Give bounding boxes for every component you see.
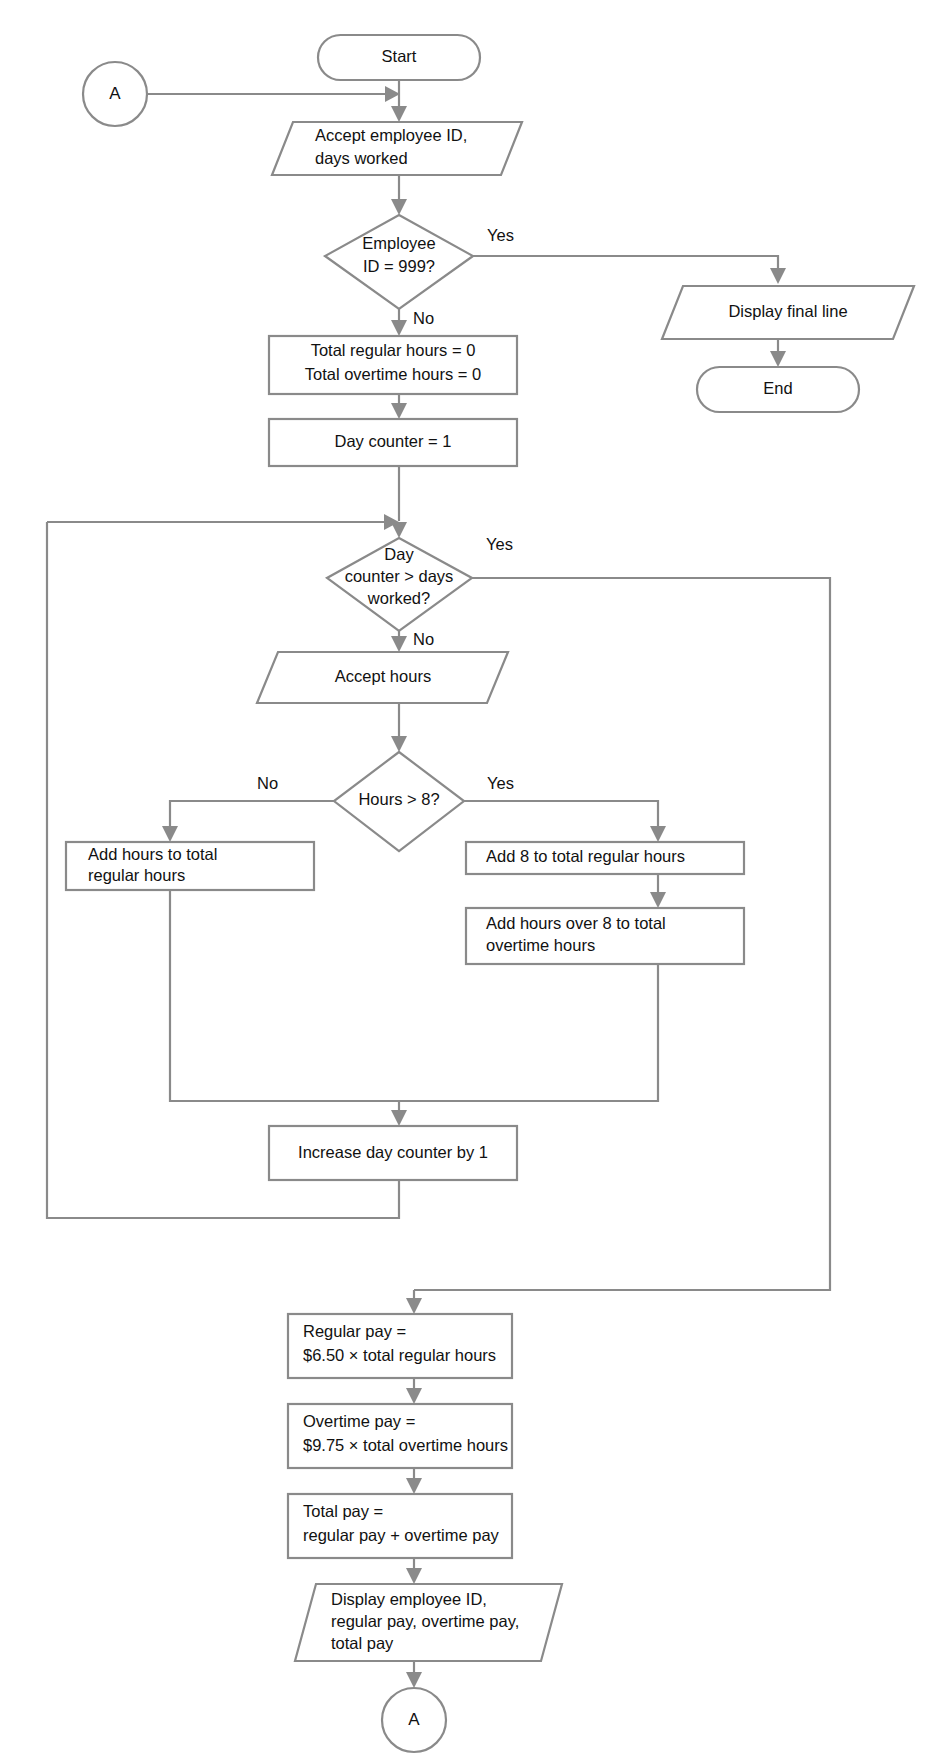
- overtime-pay-line2: $9.75 × total overtime hours: [303, 1436, 508, 1454]
- branch-label-hours-yes: Yes: [487, 774, 514, 792]
- add-overtime-line1: Add hours over 8 to total: [486, 914, 666, 932]
- regular-pay-line1: Regular pay =: [303, 1322, 406, 1340]
- display-results-line1: Display employee ID,: [331, 1590, 487, 1608]
- regular-pay-line2: $6.50 × total regular hours: [303, 1346, 496, 1364]
- decision-hours-label: Hours > 8?: [358, 790, 439, 808]
- node-connector-a-bottom[interactable]: A: [382, 1688, 446, 1752]
- edge-left-branch-merge: [170, 890, 399, 1101]
- flowchart-canvas: A Start Accept employee ID, days worked …: [0, 0, 949, 1755]
- node-start[interactable]: Start: [318, 35, 480, 80]
- arrowhead-decision-id-no: [391, 320, 407, 336]
- node-decision-day-counter[interactable]: Day counter > days worked?: [327, 538, 472, 631]
- node-add-8-regular[interactable]: Add 8 to total regular hours: [466, 842, 744, 874]
- overtime-pay-line1: Overtime pay =: [303, 1412, 415, 1430]
- arrowhead-display-final-to-end: [770, 351, 786, 367]
- edge-decision-hours-yes: [464, 801, 658, 830]
- arrowhead-display-to-connector-a: [406, 1672, 422, 1688]
- add-hours-regular-line2: regular hours: [88, 866, 185, 884]
- add-hours-regular-line1: Add hours to total: [88, 845, 217, 863]
- edge-decision-hours-no: [170, 801, 334, 830]
- decision-day-counter-line2: counter > days: [345, 567, 454, 585]
- node-regular-pay[interactable]: Regular pay = $6.50 × total regular hour…: [288, 1314, 512, 1378]
- node-display-results[interactable]: Display employee ID, regular pay, overti…: [295, 1584, 562, 1661]
- start-label: Start: [382, 47, 417, 65]
- decision-employee-id-line1: Employee: [362, 234, 435, 252]
- branch-label-day-counter-yes: Yes: [486, 535, 513, 553]
- arrowhead-decision-id-yes: [770, 268, 786, 284]
- display-results-line2: regular pay, overtime pay,: [331, 1612, 519, 1630]
- node-total-pay[interactable]: Total pay = regular pay + overtime pay: [288, 1494, 512, 1558]
- arrowhead-accept-to-decision-id: [391, 199, 407, 215]
- decision-employee-id-line2: ID = 999?: [363, 257, 435, 275]
- node-init-totals[interactable]: Total regular hours = 0 Total overtime h…: [269, 336, 517, 394]
- connector-a-bottom-label: A: [408, 1710, 420, 1729]
- arrowhead-connector-a: [385, 86, 400, 102]
- branch-label-hours-no: No: [257, 774, 278, 792]
- accept-input-line2: days worked: [315, 149, 408, 167]
- increase-day-counter-label: Increase day counter by 1: [298, 1143, 488, 1161]
- arrowhead-accept-hours-to-decision-hours: [391, 736, 407, 752]
- arrowhead-add8-to-addovertime: [650, 892, 666, 908]
- arrowhead-totalpay-to-display: [406, 1568, 422, 1584]
- arrowhead-init-totals-to-daycounter: [391, 403, 407, 419]
- add-overtime-line2: overtime hours: [486, 936, 595, 954]
- accept-hours-label: Accept hours: [335, 667, 431, 685]
- node-add-overtime[interactable]: Add hours over 8 to total overtime hours: [466, 908, 744, 964]
- decision-day-counter-line3: worked?: [367, 589, 430, 607]
- arrowhead-merge-to-increase: [391, 1110, 407, 1126]
- node-add-hours-regular[interactable]: Add hours to total regular hours: [66, 842, 314, 890]
- arrowhead-regularpay-to-overtimepay: [406, 1388, 422, 1404]
- node-increase-day-counter[interactable]: Increase day counter by 1: [269, 1126, 517, 1180]
- branch-label-day-counter-no: No: [413, 630, 434, 648]
- node-decision-hours[interactable]: Hours > 8?: [334, 752, 464, 851]
- node-init-day-counter[interactable]: Day counter = 1: [269, 419, 517, 466]
- node-accept-hours[interactable]: Accept hours: [257, 652, 508, 703]
- decision-day-counter-line1: Day: [384, 545, 414, 563]
- arrowhead-decision-hours-yes: [650, 826, 666, 842]
- init-day-counter-label: Day counter = 1: [335, 432, 452, 450]
- connector-a-top-label: A: [109, 84, 121, 103]
- arrowhead-overtimepay-to-totalpay: [406, 1478, 422, 1494]
- node-overtime-pay[interactable]: Overtime pay = $9.75 × total overtime ho…: [288, 1404, 512, 1468]
- end-label: End: [763, 379, 792, 397]
- arrowhead-junction-to-decision-day: [391, 522, 407, 538]
- node-end[interactable]: End: [697, 367, 859, 412]
- display-results-line3: total pay: [331, 1634, 394, 1652]
- init-totals-line1: Total regular hours = 0: [311, 341, 476, 359]
- add-8-regular-label: Add 8 to total regular hours: [486, 847, 685, 865]
- edge-decision-id-yes: [473, 256, 778, 272]
- branch-label-employee-id-yes: Yes: [487, 226, 514, 244]
- node-connector-a-top[interactable]: A: [83, 62, 147, 126]
- flowchart-svg: A Start Accept employee ID, days worked …: [0, 0, 949, 1755]
- branch-label-employee-id-no: No: [413, 309, 434, 327]
- edge-right-branch-merge: [399, 964, 658, 1101]
- node-decision-employee-id[interactable]: Employee ID = 999?: [325, 215, 473, 309]
- total-pay-line1: Total pay =: [303, 1502, 383, 1520]
- accept-input-line1: Accept employee ID,: [315, 126, 467, 144]
- arrowhead-decision-hours-no: [162, 826, 178, 842]
- total-pay-line2: regular pay + overtime pay: [303, 1526, 500, 1544]
- node-accept-input[interactable]: Accept employee ID, days worked: [272, 122, 522, 175]
- init-totals-line2: Total overtime hours = 0: [305, 365, 482, 383]
- arrowhead-start-to-accept: [391, 106, 407, 122]
- display-final-line-label: Display final line: [728, 302, 847, 320]
- arrowhead-pay-entry: [406, 1298, 422, 1314]
- node-display-final-line[interactable]: Display final line: [662, 286, 914, 339]
- arrowhead-decision-day-no: [391, 636, 407, 652]
